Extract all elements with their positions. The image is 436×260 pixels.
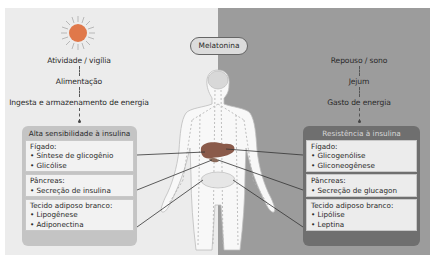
liver-box: Fígado: Glicogenólise Gliconeogênese: [306, 140, 417, 172]
list-item: Lipogênese: [30, 210, 130, 219]
liver-box: Fígado: Síntese de glicogênio Glicólise: [25, 140, 134, 172]
box-heading: Tecido adiposo branco:: [30, 201, 130, 210]
arrow-head: [78, 120, 81, 123]
list-item: Glicólise: [30, 161, 130, 170]
box-heading: Fígado:: [30, 142, 130, 151]
arrow-head: [358, 120, 361, 123]
list-item: Adiponectina: [30, 220, 130, 229]
list-item: Síntese de glicogênio: [30, 151, 130, 160]
list-item: Secreção de glucagon: [311, 186, 413, 195]
insulin-sensitivity-group: Alta sensibilidade à insulina Fígado: Sí…: [22, 126, 137, 246]
box-heading: Pâncreas:: [30, 176, 130, 185]
box-heading: Tecido adiposo branco:: [311, 201, 413, 210]
pancreas-box: Pâncreas: Secreção de glucagon: [306, 174, 417, 197]
melatonin-label: Melatonina: [190, 37, 248, 55]
connector: [359, 87, 360, 97]
list-item: Secreção de insulina: [30, 186, 130, 195]
insulin-resistance-group: Resistência à insulina Fígado: Glicogenó…: [303, 126, 420, 246]
connector: [79, 87, 80, 97]
label-rest: Repouso / sono: [331, 56, 388, 65]
list-item: Lipólise: [311, 210, 413, 219]
label-activity: Atividade / vigília: [47, 56, 111, 65]
group-title: Alta sensibilidade à insulina: [25, 129, 134, 138]
label-energy-intake: Ingesta e armazenamento de energia: [9, 98, 149, 107]
label-energy-expenditure: Gasto de energia: [327, 98, 391, 107]
label-feeding: Alimentação: [56, 77, 102, 86]
list-item: Leptina: [311, 220, 413, 229]
connector: [79, 66, 80, 76]
list-item: Gliconeogênese: [311, 161, 413, 170]
connector: [359, 66, 360, 76]
box-heading: Fígado:: [311, 142, 413, 151]
label-fasting: Jejum: [349, 77, 370, 86]
pancreas-box: Pâncreas: Secreção de insulina: [25, 174, 134, 197]
group-title: Resistência à insulina: [306, 129, 417, 138]
adipose-box: Tecido adiposo branco: Lipólise Leptina: [306, 199, 417, 231]
adipose-box: Tecido adiposo branco: Lipogênese Adipon…: [25, 199, 134, 231]
list-item: Glicogenólise: [311, 151, 413, 160]
box-heading: Pâncreas:: [311, 176, 413, 185]
